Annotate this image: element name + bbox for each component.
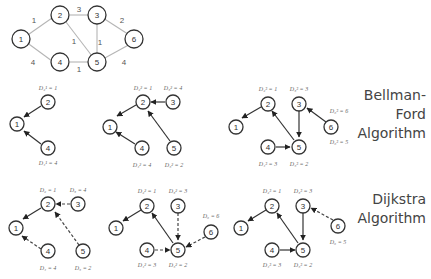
svg-text:4: 4	[46, 144, 51, 153]
svg-text:D₆ = 6: D₆ = 6	[202, 213, 219, 219]
svg-text:D₅³ = 2: D₅³ = 2	[293, 262, 312, 268]
svg-text:6: 6	[329, 123, 334, 132]
node-2: 2	[51, 6, 69, 24]
svg-text:D₅² = 2: D₅² = 2	[168, 262, 187, 268]
svg-text:D₄³ = 3: D₄³ = 3	[262, 262, 281, 268]
svg-text:2: 2	[145, 202, 150, 211]
original-graph: 1 3 2 4 1 4 1 1 1 2 3 4 5 6	[12, 5, 143, 74]
svg-text:2: 2	[46, 200, 51, 209]
svg-text:D₅² = 2: D₅² = 2	[164, 162, 183, 168]
svg-text:3: 3	[95, 11, 100, 20]
svg-text:3: 3	[176, 202, 181, 211]
node-3: 3	[88, 6, 106, 24]
weight-1-2: 1	[32, 16, 37, 25]
svg-text:3: 3	[76, 200, 81, 209]
svg-text:D₃² = 3: D₃² = 3	[168, 188, 187, 194]
weight-3-6: 2	[120, 16, 125, 25]
weight-1-4: 4	[31, 58, 36, 67]
svg-text:4: 4	[145, 246, 150, 255]
svg-text:4: 4	[58, 58, 63, 67]
bellman-ford-label: Bellman-Ford Algorithm	[340, 86, 426, 143]
svg-text:5: 5	[172, 144, 177, 153]
bellman-ford-step-2: 2 3 1 4 5 D₂² = 1 D₃² = 4 D₄² = 4 D₅² = …	[103, 85, 183, 168]
dijkstra-step-2: 2 3 1 4 5 6 D₂² = 1 D₃² = 3 D₄² = 3 D₅² …	[109, 188, 219, 268]
node-5: 5	[88, 53, 106, 71]
svg-text:3: 3	[171, 98, 176, 107]
svg-text:D₄³ = 3: D₄³ = 3	[258, 161, 277, 167]
svg-text:D₃² = 4: D₃² = 4	[163, 85, 182, 91]
svg-text:6: 6	[209, 228, 214, 237]
svg-text:D₂³ = 1: D₂³ = 1	[262, 188, 281, 194]
svg-text:1: 1	[108, 123, 113, 132]
svg-text:2: 2	[141, 98, 146, 107]
svg-text:D₂³ = 1: D₂³ = 1	[258, 86, 277, 92]
svg-text:D₄² = 4: D₄² = 4	[132, 162, 151, 168]
svg-text:4: 4	[266, 143, 271, 152]
svg-text:1: 1	[14, 224, 19, 233]
svg-text:D₂ = 1: D₂ = 1	[39, 187, 56, 193]
svg-text:D₄² = 3: D₄² = 3	[137, 262, 156, 268]
weight-2-3: 3	[77, 5, 82, 14]
weight-4-5: 1	[77, 65, 82, 74]
svg-text:D₅³ = 2: D₅³ = 2	[289, 161, 308, 167]
svg-text:4: 4	[270, 246, 275, 255]
node-6: 6	[125, 30, 143, 48]
svg-text:5: 5	[297, 143, 302, 152]
svg-text:5: 5	[301, 246, 306, 255]
weight-3-5: 1	[98, 38, 103, 47]
svg-text:D₄ = 4: D₄ = 4	[39, 265, 56, 271]
dijkstra-step-1: 2 3 1 4 5 D₂ = 1 D₃ = 4 D₄ = 4 D₅ = 2	[9, 187, 91, 271]
svg-text:2: 2	[270, 202, 275, 211]
node-4: 4	[51, 53, 69, 71]
dijkstra-subtitle: Algorithm	[340, 209, 426, 228]
svg-text:1: 1	[19, 35, 24, 44]
weight-2-5: 1	[72, 37, 77, 46]
svg-text:1: 1	[239, 224, 244, 233]
svg-text:D₆ = 5: D₆ = 5	[329, 239, 346, 245]
svg-text:1: 1	[234, 123, 239, 132]
svg-text:2: 2	[46, 98, 51, 107]
svg-text:5: 5	[81, 247, 86, 256]
svg-text:D₂² = 1: D₂² = 1	[137, 188, 156, 194]
bellman-ford-step-3: 2 3 1 4 5 6 D₂³ = 1 D₃³ = 3 D₄³ = 3 D₅³ …	[229, 86, 348, 167]
dijkstra-title: Dijkstra	[340, 190, 426, 209]
svg-text:1: 1	[15, 120, 20, 129]
bf1-d2: D₂¹ = 1	[38, 85, 57, 91]
svg-text:3: 3	[301, 202, 306, 211]
bellman-ford-subtitle: Algorithm	[340, 124, 426, 143]
dijkstra-label: Dijkstra Algorithm	[340, 190, 426, 228]
bf1-d4: D₄¹ = 4	[38, 160, 57, 166]
dijkstra-step-3: 2 3 1 4 5 6 D₂³ = 1 D₃³ = 3 D₄³ = 3 D₅³ …	[234, 188, 346, 268]
svg-text:3: 3	[297, 100, 302, 109]
node-1: 1	[12, 30, 30, 48]
svg-text:6: 6	[132, 35, 137, 44]
svg-text:4: 4	[46, 247, 51, 256]
svg-text:1: 1	[114, 224, 119, 233]
svg-text:2: 2	[266, 100, 271, 109]
bellman-ford-title: Bellman-Ford	[340, 86, 426, 124]
bellman-ford-step-1: 2 1 4 D₂¹ = 1 D₄¹ = 4	[10, 85, 57, 166]
svg-text:D₃³ = 3: D₃³ = 3	[289, 86, 308, 92]
svg-text:D₃ = 4: D₃ = 4	[69, 187, 86, 193]
svg-text:4: 4	[140, 144, 145, 153]
svg-text:D₃³ = 3: D₃³ = 3	[293, 188, 312, 194]
svg-text:5: 5	[176, 246, 181, 255]
svg-text:D₅ = 2: D₅ = 2	[74, 265, 91, 271]
svg-text:5: 5	[95, 58, 100, 67]
weight-5-6: 4	[122, 58, 127, 67]
svg-text:D₂² = 1: D₂² = 1	[133, 85, 152, 91]
svg-text:2: 2	[58, 11, 63, 20]
